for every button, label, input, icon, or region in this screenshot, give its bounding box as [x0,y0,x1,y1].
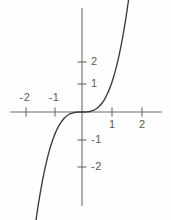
x-tick-label: 1 [109,119,116,130]
y-tick-label: -2 [91,161,102,172]
cubic-function-plot: -2-11221-1-2 [0,0,171,220]
y-tick-label: 1 [91,78,98,89]
x-tick-label: 2 [139,119,146,130]
x-tick-label: -2 [20,92,31,103]
y-tick-label: 2 [91,56,98,67]
axis-group [10,8,162,206]
plot-canvas [0,0,171,220]
x-tick-label: -1 [49,92,60,103]
y-tick-label: -1 [91,134,102,145]
